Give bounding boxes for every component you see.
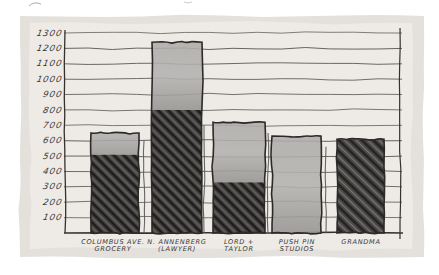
stray-pen-mark	[184, 2, 192, 3]
y-axis-tick-label: 1300	[36, 28, 64, 38]
bar-segment-hatch	[152, 110, 202, 233]
y-axis-tick-label: 500	[42, 151, 64, 161]
bar-segment-wash	[272, 136, 321, 233]
bar-columbus-ave-grocery	[91, 132, 140, 234]
bar-segment-hatch	[91, 155, 139, 234]
y-axis-tick-label: 1200	[36, 43, 64, 53]
stray-pen-mark	[29, 3, 41, 6]
y-axis-tick-label: 300	[42, 181, 64, 191]
x-axis-category-label: GROCERY	[94, 245, 131, 253]
bar-n-annenberg-lawyer	[151, 42, 203, 234]
y-axis-tick-label: 1000	[36, 74, 64, 84]
y-axis-tick-label: 600	[42, 135, 64, 145]
bar-segment-wash	[152, 42, 202, 110]
bar-chart-canvas: 1300120011001000900800700600500400300200…	[0, 0, 439, 275]
bar-lord-and-taylor	[212, 122, 266, 234]
bar-grandma	[336, 139, 384, 234]
bar-push-pin-studios	[271, 136, 322, 234]
y-axis-tick-label: 900	[42, 89, 64, 99]
hand-drawn-bar-chart-page: 1300120011001000900800700600500400300200…	[0, 0, 439, 275]
y-axis-tick-label: 400	[42, 166, 64, 176]
y-axis-tick-label: 700	[42, 120, 64, 130]
x-axis-category-label: STUDIOS	[280, 245, 314, 253]
bar-segment-hatch	[213, 182, 265, 233]
x-axis-category-label: (LAWYER)	[158, 245, 196, 253]
bar-segment-hatch	[337, 139, 384, 233]
bar-segment-wash	[91, 133, 139, 155]
x-axis-category-label: GRANDMA	[341, 238, 380, 246]
y-axis-tick-label: 100	[42, 212, 64, 222]
bar-segment-wash	[213, 122, 265, 182]
x-axis-category-label: TAYLOR	[224, 245, 253, 253]
y-axis-tick-label: 800	[42, 105, 64, 115]
y-axis-tick-label: 200	[42, 197, 64, 207]
y-axis-tick-label: 1100	[36, 58, 64, 68]
